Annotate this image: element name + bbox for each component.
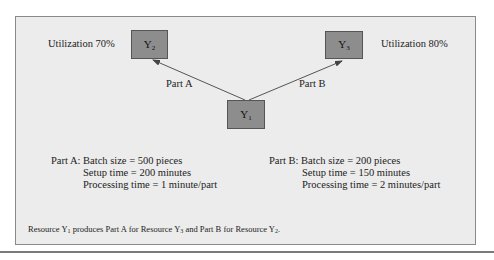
- edge-label-part-a: Part B: [299, 78, 326, 89]
- part-a-specs: Part A: Batch size = 500 pieces Setup ti…: [51, 155, 217, 191]
- footnote: Resource Y1 produces Part A for Resource…: [28, 224, 280, 234]
- part-b-specs: Part B: Batch size = 200 pieces Setup ti…: [269, 155, 440, 191]
- part-a-processing: Processing time = 1 minute/part: [51, 179, 217, 191]
- part-b-batch: Batch size = 200 pieces: [301, 155, 400, 166]
- part-a-setup: Setup time = 200 minutes: [51, 167, 217, 179]
- y2-utilization-label: Utilization 70%: [48, 38, 115, 49]
- resource-y3-box: Y3: [325, 31, 363, 59]
- y3-utilization-label: Utilization 80%: [381, 38, 448, 49]
- part-a-prefix: Part A:: [51, 155, 80, 166]
- y3-label: Y3: [338, 38, 349, 52]
- y1-label: Y1: [240, 108, 251, 122]
- part-b-prefix: Part B:: [269, 155, 298, 166]
- part-a-batch: Batch size = 500 pieces: [83, 155, 182, 166]
- resource-y1-box: Y1: [227, 100, 265, 129]
- bottom-divider: [0, 251, 494, 253]
- edge-label-part-b: Part A: [166, 78, 193, 89]
- part-b-setup: Setup time = 150 minutes: [269, 167, 440, 179]
- arrow-y1-to-y3: [249, 61, 342, 100]
- part-b-processing: Processing time = 2 minutes/part: [269, 179, 440, 191]
- resource-y2-box: Y2: [131, 30, 168, 59]
- y2-label: Y2: [144, 38, 155, 52]
